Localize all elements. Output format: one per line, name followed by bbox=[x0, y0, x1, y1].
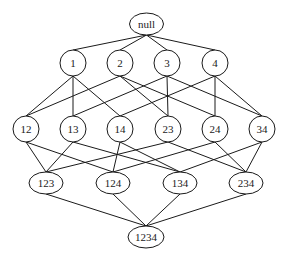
edge-null-1 bbox=[73, 35, 147, 50]
node-label: 124 bbox=[105, 177, 122, 189]
node-label: 13 bbox=[68, 123, 80, 135]
node-123: 123 bbox=[29, 172, 63, 194]
edge-123-1234 bbox=[46, 194, 146, 226]
node-2: 2 bbox=[107, 50, 133, 76]
node-label: 14 bbox=[115, 123, 127, 135]
node-234: 234 bbox=[229, 172, 263, 194]
node-label: 1234 bbox=[135, 231, 158, 243]
itemset-lattice-diagram: null12341213142324341231241342341234 bbox=[0, 0, 287, 256]
edge-14-124 bbox=[113, 142, 120, 172]
edge-2-23 bbox=[120, 76, 168, 116]
node-label: 3 bbox=[164, 57, 170, 69]
edge-1-12 bbox=[26, 76, 73, 116]
node-label: 4 bbox=[212, 57, 218, 69]
node-1: 1 bbox=[60, 50, 86, 76]
nodes-layer: null12341213142324341231241342341234 bbox=[13, 13, 275, 248]
node-14: 14 bbox=[107, 116, 133, 142]
edge-3-13 bbox=[73, 76, 167, 116]
edge-34-134 bbox=[180, 142, 262, 172]
edge-1-14 bbox=[73, 76, 120, 116]
edge-12-123 bbox=[26, 142, 46, 172]
node-label: 34 bbox=[257, 123, 269, 135]
node-4: 4 bbox=[202, 50, 228, 76]
node-24: 24 bbox=[202, 116, 228, 142]
edge-134-1234 bbox=[146, 194, 180, 226]
node-124: 124 bbox=[96, 172, 130, 194]
edge-23-234 bbox=[168, 142, 246, 172]
node-1234: 1234 bbox=[128, 226, 164, 248]
node-3: 3 bbox=[154, 50, 180, 76]
node-null: null bbox=[130, 13, 164, 35]
node-134: 134 bbox=[163, 172, 197, 194]
node-12: 12 bbox=[13, 116, 39, 142]
edge-234-1234 bbox=[146, 194, 246, 226]
node-label: null bbox=[138, 18, 155, 30]
node-label: 23 bbox=[163, 123, 175, 135]
node-23: 23 bbox=[155, 116, 181, 142]
node-label: 1 bbox=[70, 57, 76, 69]
edge-4-34 bbox=[215, 76, 262, 116]
node-label: 123 bbox=[38, 177, 55, 189]
node-34: 34 bbox=[249, 116, 275, 142]
node-label: 24 bbox=[210, 123, 222, 135]
node-label: 134 bbox=[172, 177, 189, 189]
node-label: 234 bbox=[238, 177, 255, 189]
node-13: 13 bbox=[60, 116, 86, 142]
node-label: 2 bbox=[117, 57, 123, 69]
node-label: 12 bbox=[21, 123, 32, 135]
